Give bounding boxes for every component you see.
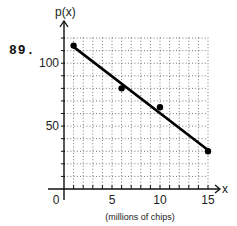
- scatter-chart: 05101550100 p(x) x (millions of chips): [0, 0, 237, 226]
- grid: [64, 38, 208, 189]
- x-tick-label: 5: [109, 193, 116, 207]
- y-tick-label: 50: [46, 119, 60, 133]
- x-tick-label: 15: [201, 193, 215, 207]
- y-tick-label: 100: [39, 56, 59, 70]
- x-axis-symbol: x: [222, 182, 228, 196]
- x-axis-title: (millions of chips): [105, 212, 175, 222]
- x-tick-label: 10: [153, 193, 167, 207]
- x-tick-label: 0: [53, 193, 60, 207]
- data-point: [157, 104, 163, 110]
- y-axis-title: p(x): [55, 5, 76, 19]
